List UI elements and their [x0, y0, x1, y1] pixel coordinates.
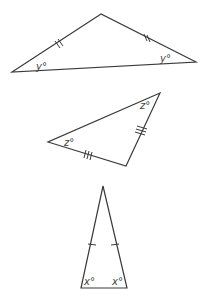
triple-tick-bottom	[84, 150, 92, 160]
double-tick-left	[55, 39, 63, 48]
triangle-x: x° x°	[81, 186, 127, 288]
single-tick-right	[111, 244, 119, 245]
triangle-y: y° y°	[12, 14, 196, 72]
angle-label-x-left: x°	[83, 276, 95, 287]
angle-label-z-left: z°	[63, 137, 74, 148]
triangle-x-outline	[81, 186, 127, 288]
angle-label-y-left: y°	[35, 61, 47, 72]
triangle-z: z° z°	[48, 93, 160, 166]
triple-tick-right	[135, 126, 147, 135]
angle-label-x-right: x°	[111, 276, 123, 287]
single-tick-left	[88, 244, 96, 245]
angle-label-y-right: y°	[159, 53, 171, 64]
angle-label-z-right: z°	[139, 100, 150, 111]
geometry-diagram: y° y° z° z° x° x°	[0, 0, 206, 301]
